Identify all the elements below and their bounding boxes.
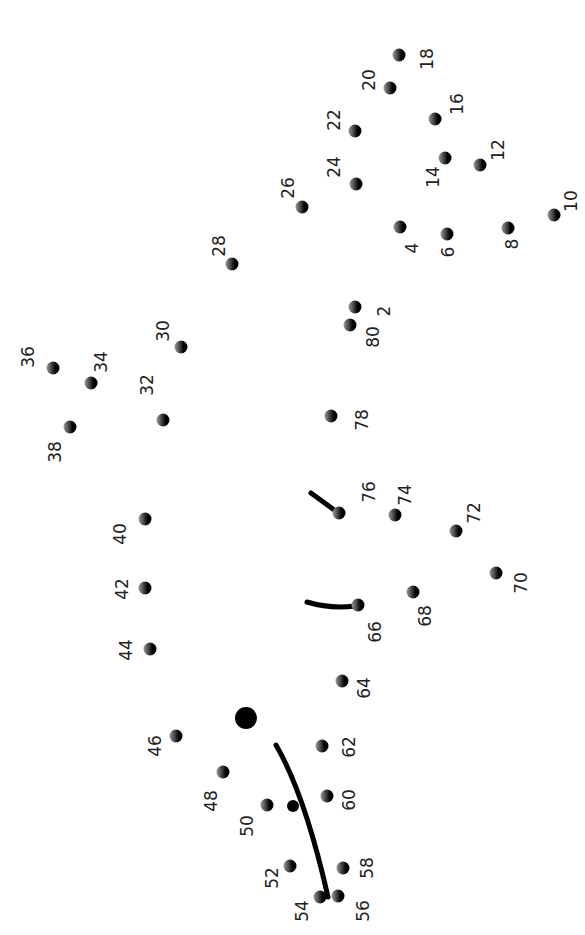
dot-42 — [139, 582, 152, 595]
dot-label-78: 78 — [354, 409, 371, 431]
dot-28 — [226, 258, 239, 271]
dot-label-46: 46 — [147, 735, 164, 757]
dot-label-38: 38 — [47, 441, 64, 463]
dot-label-18: 18 — [419, 48, 436, 70]
dot-label-72: 72 — [466, 502, 483, 524]
dot-30 — [175, 341, 188, 354]
dot-label-74: 74 — [397, 484, 414, 506]
dot-64 — [336, 675, 349, 688]
dot-6 — [441, 228, 454, 241]
dot-label-50: 50 — [239, 815, 256, 837]
dot-label-34: 34 — [93, 351, 110, 373]
dot-66 — [352, 599, 365, 612]
dot-72 — [450, 525, 463, 538]
dot-60 — [321, 790, 334, 803]
mouth-curve — [276, 745, 328, 897]
dot-label-10: 10 — [563, 190, 580, 212]
dot-label-44: 44 — [118, 639, 135, 661]
dot-label-8: 8 — [504, 239, 521, 250]
dot-label-58: 58 — [359, 857, 376, 879]
dot-36 — [47, 362, 60, 375]
dot-to-dot-canvas: 2468101214161820222426283032343638404244… — [0, 0, 585, 935]
dot-label-62: 62 — [341, 736, 358, 758]
dot-label-66: 66 — [367, 621, 384, 643]
dot-80 — [344, 319, 357, 332]
eye-dot — [235, 707, 257, 729]
nose-dot — [287, 800, 299, 812]
dot-label-30: 30 — [155, 320, 172, 342]
dot-44 — [144, 643, 157, 656]
dot-54 — [314, 891, 327, 904]
dot-label-80: 80 — [365, 326, 382, 348]
dot-70 — [490, 567, 503, 580]
dot-label-52: 52 — [264, 867, 281, 889]
dot-20 — [384, 82, 397, 95]
dot-label-36: 36 — [20, 346, 37, 368]
dot-2 — [349, 301, 362, 314]
dot-32 — [157, 414, 170, 427]
dot-4 — [394, 221, 407, 234]
dot-16 — [429, 113, 442, 126]
dot-76 — [333, 507, 346, 520]
dot-26 — [296, 201, 309, 214]
dot-24 — [350, 178, 363, 191]
dot-14 — [439, 152, 452, 165]
dot-label-48: 48 — [203, 790, 220, 812]
dot-label-14: 14 — [425, 166, 442, 188]
dot-56 — [332, 890, 345, 903]
dot-8 — [502, 222, 515, 235]
dot-34 — [85, 377, 98, 390]
dot-18 — [393, 49, 406, 62]
ear-line-66 — [307, 602, 355, 607]
dot-label-12: 12 — [490, 139, 507, 161]
dot-50 — [261, 799, 274, 812]
dot-62 — [316, 740, 329, 753]
dot-label-68: 68 — [417, 605, 434, 627]
dot-label-76: 76 — [361, 481, 378, 503]
dot-22 — [349, 125, 362, 138]
dot-label-4: 4 — [404, 243, 421, 254]
dot-label-2: 2 — [376, 306, 393, 317]
dot-58 — [337, 862, 350, 875]
dot-label-20: 20 — [361, 69, 378, 91]
dot-40 — [139, 513, 152, 526]
dot-label-6: 6 — [440, 247, 457, 258]
dot-label-16: 16 — [449, 93, 466, 115]
dot-label-24: 24 — [326, 156, 343, 178]
dot-label-56: 56 — [355, 900, 372, 922]
dot-12 — [474, 159, 487, 172]
dot-68 — [407, 586, 420, 599]
dot-78 — [325, 410, 338, 423]
dot-label-22: 22 — [326, 109, 343, 131]
dot-label-26: 26 — [280, 177, 297, 199]
dot-label-70: 70 — [513, 572, 530, 594]
dot-label-60: 60 — [341, 789, 358, 811]
dot-label-32: 32 — [139, 374, 156, 396]
dot-52 — [284, 860, 297, 873]
dot-label-54: 54 — [294, 900, 311, 922]
dot-46 — [170, 730, 183, 743]
dot-label-42: 42 — [114, 578, 131, 600]
dot-label-40: 40 — [112, 523, 129, 545]
dot-74 — [389, 509, 402, 522]
dot-10 — [548, 209, 561, 222]
dot-label-28: 28 — [211, 235, 228, 257]
dot-38 — [64, 421, 77, 434]
dot-48 — [217, 766, 230, 779]
dot-label-64: 64 — [356, 677, 373, 699]
